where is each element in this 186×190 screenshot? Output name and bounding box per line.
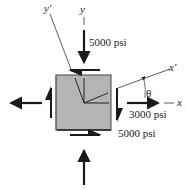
- vertical-stress-label: 5000 psi: [89, 37, 127, 48]
- horizontal-stress-label: 3000 psi: [129, 109, 167, 120]
- shear-stress-label: 5000 psi: [118, 128, 156, 139]
- diagram-canvas: [0, 0, 186, 190]
- y-prime-axis-line: [50, 14, 72, 72]
- x-prime-axis-label: x′: [169, 62, 176, 73]
- y-axis-label: y: [80, 4, 85, 15]
- x-prime-axis-line: [118, 69, 170, 88]
- stress-element-diagram: y y′ 5000 psi x′ θ x 3000 psi 5000 psi: [0, 0, 186, 190]
- y-prime-axis-label: y′: [44, 3, 51, 14]
- x-axis-label: x: [177, 97, 182, 108]
- theta-label: θ: [146, 88, 151, 99]
